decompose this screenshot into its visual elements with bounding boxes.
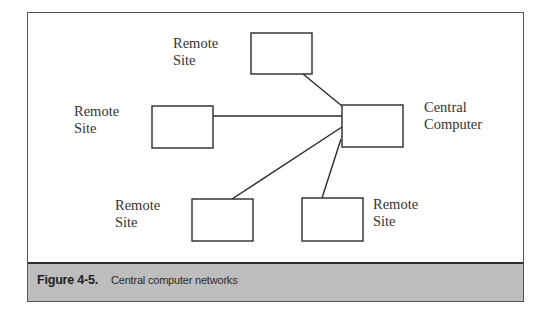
label-remote-site-top: Remote Site	[173, 35, 218, 69]
label-remote-site-bottom-right: Remote Site	[373, 196, 418, 230]
label-line-1: Remote	[173, 35, 218, 52]
label-line-2: Site	[115, 214, 160, 231]
label-line-2: Site	[74, 120, 119, 137]
node-remote-site-bottom-left	[192, 199, 253, 241]
node-remote-site-top	[251, 33, 312, 74]
node-remote-site-bottom-right	[302, 198, 363, 241]
node-central-computer	[342, 105, 403, 147]
label-line-2: Computer	[424, 116, 482, 133]
label-remote-site-bottom-left: Remote Site	[115, 197, 160, 231]
label-line-1: Remote	[74, 103, 119, 120]
label-line-1: Remote	[115, 197, 160, 214]
node-remote-site-left	[152, 106, 213, 148]
caption-figure-number: Figure 4-5.	[37, 273, 98, 287]
label-line-1: Central	[424, 99, 482, 116]
label-central-computer: Central Computer	[424, 99, 482, 133]
figure-caption: Figure 4-5. Central computer networks	[28, 262, 523, 301]
label-line-2: Site	[173, 52, 218, 69]
label-line-1: Remote	[373, 196, 418, 213]
caption-title: Central computer networks	[111, 274, 237, 286]
link-remote-top-to-central	[303, 74, 342, 106]
link-remote-bottom-right-to-central	[322, 139, 341, 198]
label-remote-site-left: Remote Site	[74, 103, 119, 137]
label-line-2: Site	[373, 213, 418, 230]
